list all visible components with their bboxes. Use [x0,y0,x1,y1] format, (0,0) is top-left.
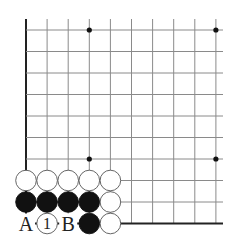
star-point-icon [213,156,218,161]
board-grid [26,19,223,224]
black-stone [79,192,100,213]
star-point-icon [213,27,218,32]
point-label-a: A [19,213,34,235]
white-stone [79,170,100,191]
black-stone [37,192,58,213]
white-stone [100,170,121,191]
white-stone [58,170,79,191]
white-stone [100,192,121,213]
white-stone [37,170,58,191]
black-stone [58,192,79,213]
move-number-label: 1 [43,215,51,232]
point-label-b: B [62,213,75,235]
black-stone [79,213,100,234]
star-point-icon [87,156,92,161]
white-stone [100,213,121,234]
white-stone [16,170,37,191]
star-point-icon [87,27,92,32]
go-board: 1 AB [0,0,239,246]
black-stone [16,192,37,213]
white-stone: 1 [37,213,58,234]
